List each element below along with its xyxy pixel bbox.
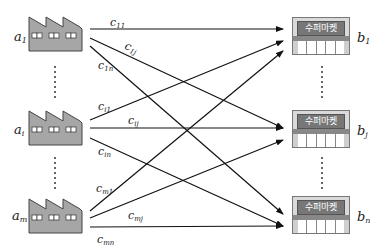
ellipsis-destinations-upper <box>321 66 324 101</box>
edge-label-cmj: cmj <box>128 210 143 225</box>
supermarket-icon-bj: 수퍼마켓 <box>292 110 350 148</box>
edge-label-cin: cin <box>98 146 111 161</box>
supermarket-icon-bn: 수퍼마켓 <box>292 196 350 234</box>
ellipsis-destinations-lower <box>321 157 324 192</box>
edge-label-cmn: cmn <box>97 234 114 249</box>
edge-label-ci1: ci1 <box>98 101 111 116</box>
source-label-am: am <box>12 209 27 226</box>
destination-label-b1: b1 <box>357 31 370 48</box>
ellipsis-sources-upper <box>54 66 57 101</box>
ellipsis-sources-lower <box>54 157 57 192</box>
source-label-a1: a1 <box>14 30 27 47</box>
edge-label-cm1: cm1 <box>96 183 113 198</box>
supermarket-sign: 수퍼마켓 <box>297 114 345 129</box>
supermarket-sign: 수퍼마켓 <box>297 200 345 215</box>
supermarket-icon-b1: 수퍼마켓 <box>292 17 350 55</box>
supermarket-sign: 수퍼마켓 <box>297 21 345 36</box>
factory-icon-am <box>29 199 82 233</box>
destination-label-bj: bj <box>357 124 368 141</box>
factory-icon-a1 <box>29 17 82 51</box>
edge-label-cij: cij <box>128 115 139 130</box>
edge-label-c11: c11 <box>110 17 125 32</box>
factory-icon-ai <box>29 111 82 145</box>
edge-a1-bj <box>90 38 283 128</box>
destination-label-bn: bn <box>357 210 370 227</box>
edge-ai-b1 <box>90 41 283 120</box>
edge-label-c1n: c1n <box>98 60 113 75</box>
edge-am-bn <box>90 226 283 227</box>
source-label-ai: ai <box>14 123 24 140</box>
edge-a1-bn <box>90 46 283 214</box>
edge-am-b1 <box>90 51 283 211</box>
